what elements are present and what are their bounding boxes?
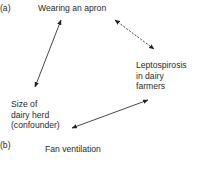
panel-a-label: (a) [0,3,11,14]
outcome-node: Leptospirosis in dairy farmers [136,60,187,92]
arrow-exposure-outcome [115,20,154,49]
arrow-confounder-outcome [72,100,148,128]
panel-b-exposure-node: Fan ventilation [45,144,101,155]
panel-b-label: (b) [0,140,11,151]
arrow-confounder-exposure [35,20,61,87]
confounder-node: Size of dairy herd (confounder) [11,99,60,131]
exposure-node: Wearing an apron [38,3,106,14]
